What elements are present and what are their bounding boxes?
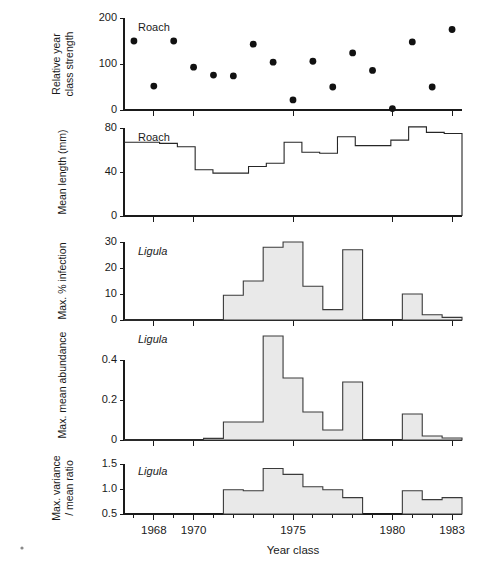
panel-2: 04080Roach [105,121,462,222]
panel-1-ytick-label: 0 [111,103,117,115]
data-point [250,41,257,48]
data-point [449,26,456,33]
x-tick-label: 1968 [141,524,167,536]
panel-4-histogram [124,336,462,440]
panel-3-ytick-label: 0 [111,313,117,325]
panel-4-ytick-label: 0.4 [102,353,117,365]
data-point [150,83,157,90]
panel-3-histogram [124,242,462,320]
panel-3-ytick-label: 10 [105,287,117,299]
data-point [369,67,376,74]
panel-3-ytick-label: 30 [105,235,117,247]
panel-4: 00.20.4Ligula [102,333,462,446]
panel-3-ylabel: Max. % infection [56,242,68,319]
figure-canvas: 0100200Roach04080Roach0102030Ligula00.20… [0,0,479,562]
panel-2-ytick-label: 80 [105,121,117,133]
panel-2-axes [124,128,462,216]
data-point [329,84,336,91]
panel-1-annotation: Roach [138,21,170,33]
data-point [131,38,138,45]
scan-speck [20,546,23,549]
panel-1-ytick-label: 200 [99,11,117,23]
panel-1-axes [124,18,462,110]
panel-3-annotation: Ligula [138,245,167,257]
panel-5-histogram [223,468,362,514]
panel-2-step-line [124,127,462,216]
panel-4-annotation: Ligula [138,333,167,345]
panel-5-ytick-label: 1.5 [102,457,117,469]
panel-3: 0102030Ligula [105,235,462,326]
data-point [429,84,436,91]
data-point [290,96,297,103]
data-point [210,72,217,79]
data-point [389,105,396,112]
panel-5-annotation: Ligula [138,465,167,477]
panel-2-annotation: Roach [138,131,170,143]
data-point [190,64,197,71]
panel-1: 0100200Roach [99,11,462,116]
data-point [170,38,177,45]
x-axis-title: Year class [267,544,320,556]
panel-1-ytick-label: 100 [99,57,117,69]
panel-1-ylabel: Relative year [50,33,62,95]
panel-4-ylabel: Max. mean abundance [56,331,68,438]
panel-4-ytick-label: 0.2 [102,393,117,405]
panel-5-ylabel: Max. variance [50,455,62,521]
panel-5-histogram [402,491,462,514]
panel-5-ytick-label: 1.0 [102,482,117,494]
panel-2-ytick-label: 40 [105,165,117,177]
data-point [309,58,316,65]
data-point [409,39,416,46]
x-tick-label: 1970 [181,524,207,536]
data-point [270,59,277,66]
x-tick-label: 1975 [280,524,306,536]
panel-3-ytick-label: 20 [105,261,117,273]
panel-1-ylabel: class strength [63,31,75,96]
data-point [230,73,237,80]
x-tick-label: 1983 [439,524,465,536]
scientific-figure: 0100200Roach04080Roach0102030Ligula00.20… [0,0,479,562]
panel-5: 0.51.01.5Ligula [102,457,462,520]
panel-5-ylabel: / mean ratio [63,460,75,516]
data-point [349,50,356,57]
panel-2-ylabel: Mean length (mm) [56,129,68,214]
panel-5-ytick-label: 0.5 [102,507,117,519]
panel-2-ytick-label: 0 [111,209,117,221]
x-tick-label: 1980 [380,524,406,536]
panel-4-ytick-label: 0 [111,433,117,445]
